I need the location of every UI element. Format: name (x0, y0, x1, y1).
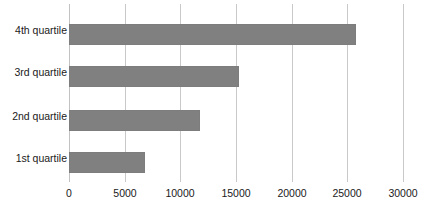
bar-3rd-quartile (69, 66, 239, 87)
bar-chart: 4th quartile 3rd quartile 2nd quartile 1… (0, 0, 428, 210)
y-axis-label-2nd-quartile: 2nd quartile (0, 110, 67, 122)
bar-row (69, 105, 403, 135)
bar-row (69, 147, 403, 177)
bar-2nd-quartile (69, 110, 200, 131)
plot-area (69, 4, 403, 182)
bar-4th-quartile (69, 24, 356, 45)
bar-row (69, 19, 403, 49)
bar-1st-quartile (69, 152, 145, 173)
y-axis-label-1st-quartile: 1st quartile (0, 152, 67, 164)
x-axis-tick-30000: 30000 (368, 187, 428, 199)
y-axis-label-4th-quartile: 4th quartile (0, 24, 67, 36)
bar-row (69, 61, 403, 91)
gridline-30000 (403, 4, 404, 182)
y-axis-label-3rd-quartile: 3rd quartile (0, 66, 67, 78)
